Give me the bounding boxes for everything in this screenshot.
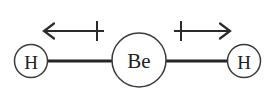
atom-label-left-h: H bbox=[24, 52, 38, 73]
dipole-arrow-left bbox=[44, 21, 104, 41]
molecule-diagram-canvas: H Be H bbox=[0, 0, 275, 99]
atom-left-hydrogen: H bbox=[15, 45, 48, 78]
dipole-arrow-right bbox=[174, 21, 230, 41]
atom-right-hydrogen: H bbox=[228, 45, 261, 78]
atom-center-beryllium: Be bbox=[112, 33, 166, 87]
atom-label-be: Be bbox=[127, 49, 150, 73]
beh2-dipole-figure: H Be H bbox=[0, 0, 275, 99]
atom-label-right-h: H bbox=[237, 52, 251, 73]
